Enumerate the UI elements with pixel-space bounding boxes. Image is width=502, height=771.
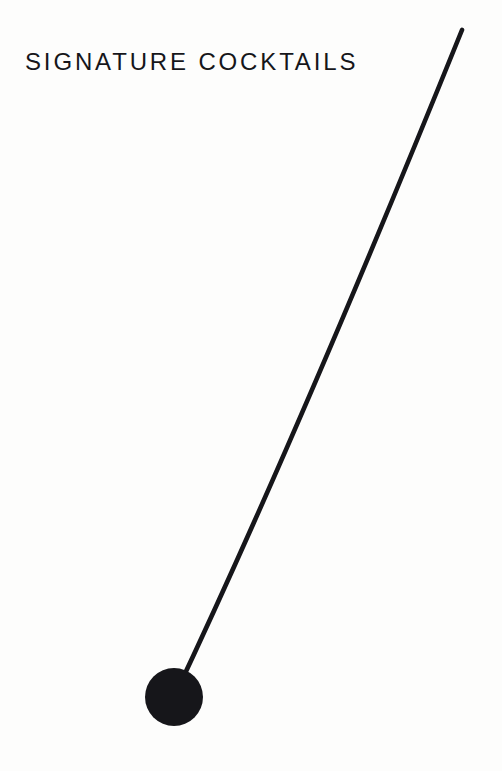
stirrer-stick-icon	[174, 30, 462, 697]
page-title: SIGNATURE COCKTAILS	[25, 48, 358, 76]
menu-page: SIGNATURE COCKTAILS	[0, 0, 502, 771]
cocktail-stirrer-graphic	[0, 0, 502, 771]
stirrer-ball-icon	[145, 668, 203, 726]
